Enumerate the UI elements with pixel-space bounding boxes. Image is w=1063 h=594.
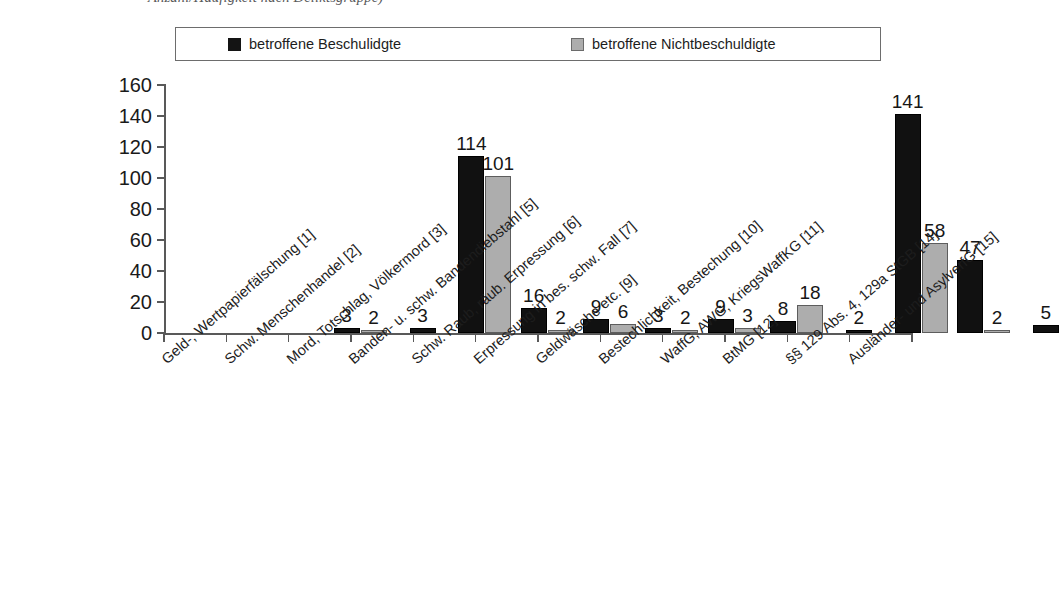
x-axis-tick (600, 334, 601, 342)
bar[interactable] (984, 330, 1010, 333)
y-axis-tick (157, 208, 164, 209)
bar-value-label: 18 (788, 283, 832, 302)
x-axis-tick (350, 334, 351, 342)
x-axis-tick (226, 334, 227, 342)
y-axis-tick (157, 239, 164, 240)
y-axis-tick-label-text: 140 (108, 106, 152, 126)
y-axis-tick-label-text: 120 (108, 137, 152, 157)
y-axis-tick-label-text: 80 (108, 199, 152, 219)
x-axis-tick (288, 334, 289, 342)
y-axis-tick-label-text: 60 (108, 230, 152, 250)
y-axis-tick-label-text: 160 (108, 75, 152, 95)
y-axis-tick-label: 140 (104, 106, 152, 126)
bar-value-label: 114 (449, 134, 493, 153)
y-axis-tick (157, 146, 164, 147)
bar-value-label: 2 (975, 308, 1019, 327)
y-axis-tick (157, 115, 164, 116)
y-axis-tick-label: 60 (104, 230, 152, 250)
x-axis-tick (413, 334, 414, 342)
bar[interactable] (1033, 325, 1059, 333)
y-axis-tick-label-text: 40 (108, 261, 152, 281)
y-axis-tick-label-text: 20 (108, 292, 152, 312)
bar-value-label: 5 (1024, 303, 1063, 322)
x-axis-tick (475, 334, 476, 342)
y-axis-tick-label: 80 (104, 199, 152, 219)
y-axis-tick (157, 270, 164, 271)
bar-value-label: 141 (886, 92, 930, 111)
x-axis-tick (787, 334, 788, 342)
x-axis-tick (163, 334, 164, 342)
bar[interactable] (846, 330, 872, 333)
y-axis-tick (157, 84, 164, 85)
y-axis-tick-label: 0 (104, 323, 152, 343)
x-axis-tick (849, 334, 850, 342)
bar[interactable] (410, 328, 436, 333)
y-axis-tick-label: 100 (104, 168, 152, 188)
y-axis-tick-label-text: 100 (108, 168, 152, 188)
x-axis-tick (724, 334, 725, 342)
y-axis-tick-label: 120 (104, 137, 152, 157)
x-axis-tick (911, 334, 912, 342)
bar-value-label: 101 (476, 154, 520, 173)
y-axis-tick-label-text: 0 (108, 323, 152, 343)
x-axis-tick (662, 334, 663, 342)
x-axis-tick (537, 334, 538, 342)
y-axis-tick-label: 160 (104, 75, 152, 95)
y-axis-tick-label: 20 (104, 292, 152, 312)
bar[interactable] (485, 176, 511, 333)
y-axis-tick-label: 40 (104, 261, 152, 281)
y-axis-tick (157, 177, 164, 178)
y-axis-tick (157, 301, 164, 302)
